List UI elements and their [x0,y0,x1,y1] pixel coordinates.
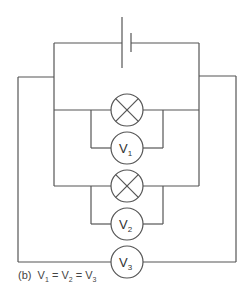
caption-prefix: (b) [18,269,31,281]
circuit-diagram: V1 V2 V3 [0,0,251,295]
lamp-1-icon [111,94,143,126]
voltmeter-v2: V2 [111,208,143,240]
voltmeter-v1: V1 [111,132,143,164]
lamp-2-icon [111,170,143,202]
figure-caption: (b) V1 = V2 = V3 [18,269,96,283]
battery [54,17,199,68]
voltmeter-v3: V3 [111,246,143,278]
